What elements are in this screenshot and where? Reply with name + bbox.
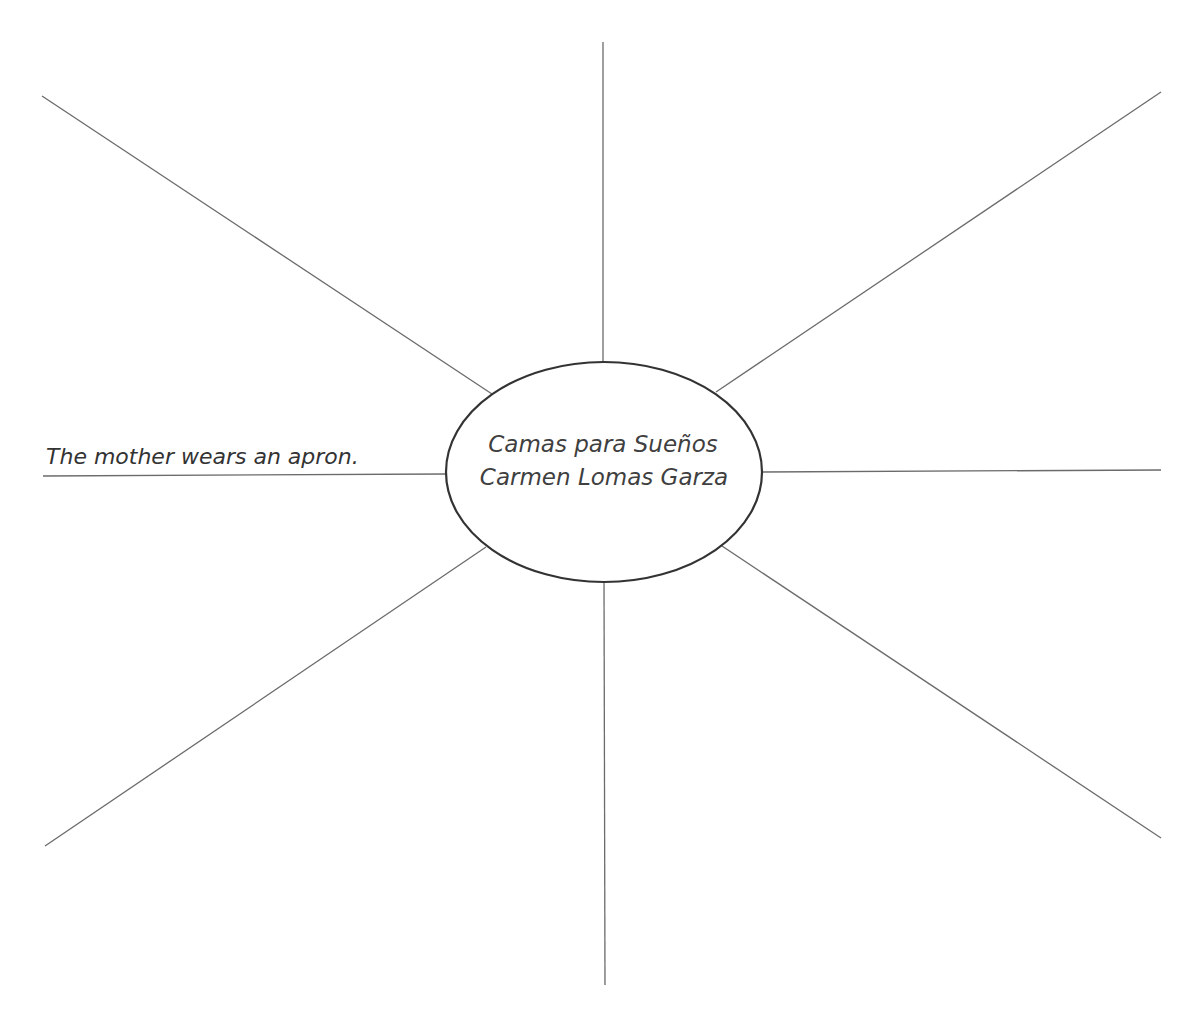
spoke-line-bottom-left[interactable] bbox=[45, 547, 486, 846]
center-title: Camas para Sueños bbox=[488, 431, 717, 457]
spoke-line-left[interactable] bbox=[43, 474, 446, 476]
spoke-line-bottom-right[interactable] bbox=[722, 546, 1161, 838]
spoke-line-bottom[interactable] bbox=[604, 582, 605, 985]
word-web-diagram: Camas para Sueños Carmen Lomas Garza The… bbox=[0, 0, 1200, 1032]
spoke-line-right[interactable] bbox=[762, 470, 1161, 472]
spoke-line-top-right[interactable] bbox=[716, 92, 1161, 392]
spoke-answer-left: The mother wears an apron. bbox=[46, 444, 359, 469]
center-artist: Carmen Lomas Garza bbox=[480, 464, 728, 490]
spoke-line-top-left[interactable] bbox=[42, 96, 492, 394]
